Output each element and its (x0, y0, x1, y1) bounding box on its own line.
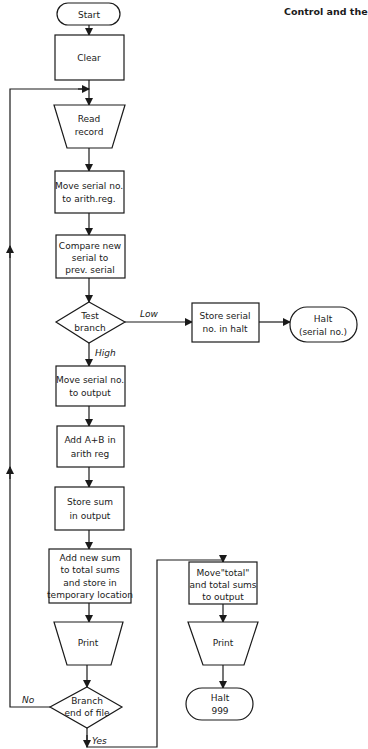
edge-label-no: No (22, 695, 35, 705)
node-start: Start (57, 3, 120, 25)
node-clear: Clear (55, 35, 124, 80)
svg-text:Move serial no.: Move serial no. (56, 375, 124, 385)
svg-text:Move serial no.: Move serial no. (55, 181, 123, 191)
svg-text:Test: Test (80, 311, 99, 321)
svg-text:Store sum: Store sum (67, 497, 113, 507)
node-store-sum: Store sum in output (55, 487, 124, 530)
svg-text:Add A+B in: Add A+B in (64, 435, 115, 445)
node-print-1: Print (54, 622, 123, 665)
node-read-record: Read record (54, 105, 125, 148)
node-halt-serial: Halt (serial no.) (290, 307, 357, 342)
svg-text:and store in: and store in (63, 578, 117, 588)
svg-text:Print: Print (213, 638, 234, 648)
node-compare: Compare new serial to prev. serial (56, 235, 125, 278)
svg-text:Halt: Halt (314, 314, 333, 324)
node-move-serial-arith: Move serial no. to arith.reg. (55, 171, 124, 213)
svg-text:in output: in output (70, 511, 111, 521)
node-halt-999: Halt 999 (186, 688, 253, 720)
svg-text:serial to: serial to (72, 253, 109, 263)
svg-text:and total sums: and total sums (189, 580, 256, 590)
svg-text:arith reg: arith reg (71, 449, 110, 459)
edge-label-low: Low (140, 309, 159, 319)
svg-text:Branch: Branch (71, 696, 103, 706)
node-store-serial-halt: Store serial no. in halt (192, 303, 259, 342)
node-test-branch: Test branch (56, 302, 125, 343)
edge-label-yes: Yes (92, 736, 107, 746)
svg-text:prev. serial: prev. serial (65, 265, 115, 275)
node-add-new-sum: Add new sum to total sums and store in t… (47, 549, 133, 603)
svg-text:(serial no.): (serial no.) (299, 327, 347, 337)
svg-text:Store serial: Store serial (199, 311, 250, 321)
node-branch-eof: Branch end of file (50, 687, 122, 728)
node-move-serial-output: Move serial no. to output (56, 366, 125, 406)
svg-text:branch: branch (74, 323, 105, 333)
svg-text:Print: Print (78, 638, 99, 648)
svg-text:to arith.reg.: to arith.reg. (62, 194, 115, 204)
svg-text:record: record (75, 127, 104, 137)
svg-text:no. in halt: no. in halt (202, 324, 248, 334)
svg-text:Add new sum: Add new sum (60, 553, 121, 563)
svg-text:to output: to output (202, 592, 244, 602)
svg-text:Move"total": Move"total" (197, 568, 250, 578)
edge-label-high: High (95, 348, 116, 358)
node-add-ab: Add A+B in arith reg (57, 426, 124, 467)
svg-text:Clear: Clear (77, 53, 101, 63)
svg-text:to total sums: to total sums (60, 565, 119, 575)
svg-text:999: 999 (211, 706, 228, 716)
svg-text:Start: Start (78, 10, 100, 20)
svg-text:Halt: Halt (211, 693, 230, 703)
svg-text:Compare new: Compare new (59, 241, 121, 251)
svg-text:end of file: end of file (64, 708, 110, 718)
svg-text:temporary location: temporary location (47, 590, 133, 600)
node-print-2: Print (188, 622, 258, 665)
svg-text:Read: Read (78, 114, 101, 124)
svg-text:to output: to output (69, 388, 111, 398)
node-move-total: Move"total" and total sums to output (189, 562, 257, 604)
